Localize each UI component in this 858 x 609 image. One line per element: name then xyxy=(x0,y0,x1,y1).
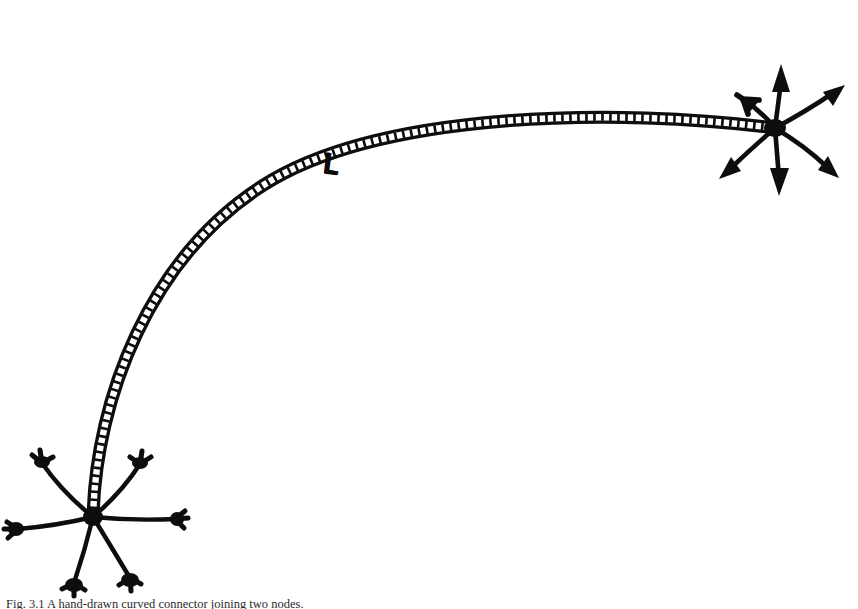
left-hub-spoke-up-left xyxy=(32,450,93,517)
left-hub-spoke-left xyxy=(4,517,93,538)
right-hub-arrow-down-left xyxy=(719,128,775,179)
connector-band-core xyxy=(93,117,775,517)
right-hub-arrow-up xyxy=(772,64,790,128)
left-hub-spoke-down-right xyxy=(93,517,141,591)
left-hub-spoke-down-left xyxy=(62,517,93,596)
connector-band-outline xyxy=(93,117,775,517)
figure-root: L Fig. 3.1 A hand-drawn curved connector… xyxy=(0,0,858,609)
right-hub-center xyxy=(764,119,786,137)
figure-caption: Fig. 3.1 A hand-drawn curved connector j… xyxy=(6,597,852,609)
left-hub-center xyxy=(83,508,103,526)
diagram-canvas xyxy=(0,0,858,609)
right-hub-arrow-down xyxy=(770,128,789,196)
left-hub-spoke-right xyxy=(93,511,188,528)
connector-band-rungs xyxy=(93,117,775,517)
connector-band xyxy=(93,117,775,517)
